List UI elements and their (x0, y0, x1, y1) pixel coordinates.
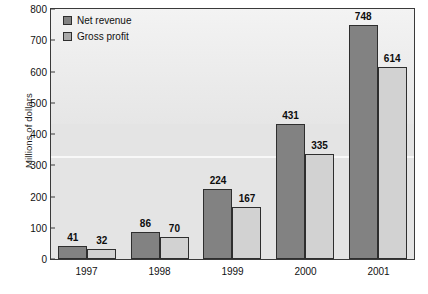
y-tick-label: 800 (30, 4, 47, 15)
bar-value-label: 41 (67, 232, 78, 243)
bar-value-label: 86 (140, 218, 151, 229)
bar-column: 224 (203, 9, 232, 259)
bar-group: 748614 (349, 9, 407, 259)
bar[interactable] (160, 237, 189, 259)
bar-group: 8670 (131, 9, 189, 259)
legend-swatch-gross-profit-icon (63, 32, 72, 41)
bar-groups: 41328670224167431335748614 (51, 9, 414, 259)
bar-chart: Millions of dollars 01002003004005006007… (0, 0, 428, 294)
x-tick-label: 2001 (367, 266, 389, 277)
y-tick-label: 700 (30, 35, 47, 46)
y-tick-label: 400 (30, 129, 47, 140)
legend-label-gross-profit: Gross profit (77, 31, 129, 42)
bar-value-label: 748 (355, 11, 372, 22)
y-tick-label: 100 (30, 222, 47, 233)
legend-item-net-revenue[interactable]: Net revenue (63, 15, 131, 26)
x-axis-tick-labels: 19971998199920002001 (50, 266, 415, 277)
bar-group: 4132 (58, 9, 116, 259)
bar-column: 748 (349, 9, 378, 259)
y-tick-label: 300 (30, 160, 47, 171)
legend: Net revenue Gross profit (63, 15, 131, 42)
legend-label-net-revenue: Net revenue (77, 15, 131, 26)
bar[interactable] (232, 207, 261, 259)
bar-value-label: 335 (311, 140, 328, 151)
bar-value-label: 32 (96, 235, 107, 246)
bar[interactable] (203, 189, 232, 259)
bar-value-label: 614 (384, 53, 401, 64)
legend-item-gross-profit[interactable]: Gross profit (63, 31, 131, 42)
x-tick-label: 1999 (221, 266, 243, 277)
y-tick-label: 200 (30, 191, 47, 202)
bar[interactable] (349, 25, 378, 259)
y-tick-label: 600 (30, 66, 47, 77)
bar[interactable] (58, 246, 87, 259)
bar[interactable] (276, 124, 305, 259)
bar-column: 167 (232, 9, 261, 259)
x-tick-label: 1998 (148, 266, 170, 277)
x-tick-label: 2000 (294, 266, 316, 277)
bar-column: 335 (305, 9, 334, 259)
x-tick-label: 1997 (75, 266, 97, 277)
bar-value-label: 224 (210, 175, 227, 186)
bar[interactable] (305, 154, 334, 259)
bar-value-label: 70 (169, 223, 180, 234)
bar[interactable] (87, 249, 116, 259)
bar-group: 224167 (203, 9, 261, 259)
legend-swatch-net-revenue-icon (63, 16, 72, 25)
y-tick-label: 0 (41, 254, 47, 265)
bar-column: 86 (131, 9, 160, 259)
bar-column: 41 (58, 9, 87, 259)
bar[interactable] (131, 232, 160, 259)
bar-column: 614 (378, 9, 407, 259)
y-tick-label: 500 (30, 97, 47, 108)
bar-group: 431335 (276, 9, 334, 259)
bar-column: 431 (276, 9, 305, 259)
bar-column: 70 (160, 9, 189, 259)
bar[interactable] (378, 67, 407, 259)
bar-value-label: 431 (282, 110, 299, 121)
bar-column: 32 (87, 9, 116, 259)
bar-value-label: 167 (239, 193, 256, 204)
plot-area: 0100200300400500600700800 41328670224167… (50, 8, 415, 260)
